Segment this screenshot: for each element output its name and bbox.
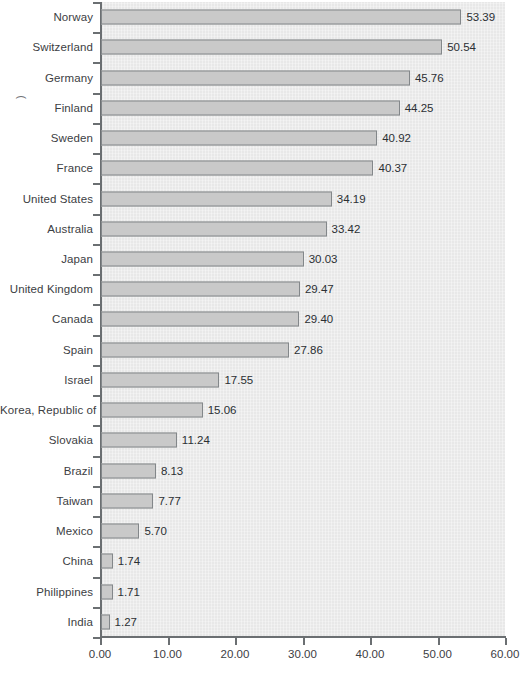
bar-value-label: 50.54 bbox=[447, 41, 476, 53]
bar-row: United States34.19 bbox=[0, 183, 530, 213]
y-axis-tick bbox=[93, 516, 101, 518]
bar-row: Japan30.03 bbox=[0, 244, 530, 274]
y-axis-tick bbox=[93, 2, 101, 4]
bar bbox=[101, 312, 299, 327]
bar-value-label: 44.25 bbox=[405, 102, 434, 114]
category-label: India bbox=[0, 616, 93, 628]
bar-value-label: 40.37 bbox=[378, 162, 407, 174]
bar-value-label: 7.77 bbox=[158, 495, 180, 507]
x-axis-tick-label: 20.00 bbox=[221, 648, 250, 660]
bar-row: Spain27.86 bbox=[0, 335, 530, 365]
bar-row: France40.37 bbox=[0, 153, 530, 183]
bar-value-label: 1.27 bbox=[115, 616, 137, 628]
category-label: Mexico bbox=[0, 525, 93, 537]
bar bbox=[101, 463, 156, 478]
category-label: Canada bbox=[0, 313, 93, 325]
x-axis-tick bbox=[370, 638, 372, 645]
x-axis-tick-label: 30.00 bbox=[288, 648, 317, 660]
bar-row: Finland44.25 bbox=[0, 93, 530, 123]
category-label: Korea, Republic of bbox=[0, 404, 93, 416]
y-axis-tick bbox=[93, 62, 101, 64]
bar-value-label: 33.42 bbox=[332, 223, 361, 235]
y-axis-tick bbox=[93, 304, 101, 306]
bar bbox=[101, 161, 373, 176]
bar-value-label: 8.13 bbox=[161, 465, 183, 477]
category-label: Germany bbox=[0, 72, 93, 84]
bar bbox=[101, 493, 153, 508]
bar-row: Sweden40.92 bbox=[0, 123, 530, 153]
category-label: Switzerland bbox=[0, 41, 93, 53]
category-label: Taiwan bbox=[0, 495, 93, 507]
category-label: Norway bbox=[0, 11, 93, 23]
bar bbox=[101, 252, 304, 267]
bar bbox=[101, 403, 203, 418]
y-axis-tick bbox=[93, 456, 101, 458]
category-label: Philippines bbox=[0, 586, 93, 598]
bar-value-label: 11.24 bbox=[182, 434, 210, 446]
x-axis-tick bbox=[235, 638, 237, 645]
bar bbox=[101, 221, 327, 236]
y-axis-tick bbox=[93, 486, 101, 488]
bar-row: Canada29.40 bbox=[0, 304, 530, 334]
category-label: France bbox=[0, 162, 93, 174]
bar-row: Switzerland50.54 bbox=[0, 32, 530, 62]
bar-value-label: 29.47 bbox=[305, 283, 334, 295]
bar-value-label: 15.06 bbox=[208, 404, 237, 416]
bar-value-label: 30.03 bbox=[309, 253, 338, 265]
bar bbox=[101, 372, 219, 387]
x-axis-tick-label: 60.00 bbox=[491, 648, 520, 660]
y-axis-tick bbox=[93, 123, 101, 125]
bar bbox=[101, 70, 410, 85]
x-axis-tick bbox=[168, 638, 170, 645]
x-axis-tick bbox=[303, 638, 305, 645]
bar bbox=[101, 614, 110, 629]
category-label: Spain bbox=[0, 344, 93, 356]
category-label: United States bbox=[0, 193, 93, 205]
category-label: Israel bbox=[0, 374, 93, 386]
bar-value-label: 45.76 bbox=[415, 72, 444, 84]
x-axis-tick-label: 50.00 bbox=[423, 648, 452, 660]
x-axis-tick bbox=[100, 638, 102, 645]
x-axis-tick bbox=[505, 638, 507, 645]
x-axis-tick-label: 10.00 bbox=[153, 648, 182, 660]
bar bbox=[101, 342, 289, 357]
y-axis-tick bbox=[93, 395, 101, 397]
bar bbox=[101, 100, 400, 115]
bar-row: Philippines1.71 bbox=[0, 577, 530, 607]
bar-value-label: 29.40 bbox=[304, 313, 333, 325]
bar-row: Brazil8.13 bbox=[0, 456, 530, 486]
bar bbox=[101, 282, 300, 297]
bar-row: Australia33.42 bbox=[0, 214, 530, 244]
bar-value-label: 5.70 bbox=[144, 525, 166, 537]
category-label: Japan bbox=[0, 253, 93, 265]
bar bbox=[101, 10, 461, 25]
bar-row: United Kingdom29.47 bbox=[0, 274, 530, 304]
y-axis-tick bbox=[93, 335, 101, 337]
bar-value-label: 53.39 bbox=[466, 11, 495, 23]
bar-row: Germany45.76 bbox=[0, 62, 530, 92]
y-axis-tick bbox=[93, 365, 101, 367]
y-axis-tick bbox=[93, 425, 101, 427]
category-label: Brazil bbox=[0, 465, 93, 477]
bar-value-label: 17.55 bbox=[224, 374, 253, 386]
y-axis-tick bbox=[93, 32, 101, 34]
category-label: Finland bbox=[0, 102, 93, 114]
bar-value-label: 40.92 bbox=[382, 132, 411, 144]
category-label: Slovakia bbox=[0, 434, 93, 446]
bar bbox=[101, 584, 113, 599]
bar-row: China1.74 bbox=[0, 546, 530, 576]
bar bbox=[101, 191, 332, 206]
y-axis-tick bbox=[93, 607, 101, 609]
x-axis-tick-label: 0.00 bbox=[89, 648, 111, 660]
bar-value-label: 27.86 bbox=[294, 344, 323, 356]
bar bbox=[101, 433, 177, 448]
bar-value-label: 1.74 bbox=[118, 555, 140, 567]
y-axis-tick bbox=[93, 183, 101, 185]
bar bbox=[101, 524, 139, 539]
bar-chart: ) Norway53.39Switzerland50.54Germany45.7… bbox=[0, 0, 530, 675]
y-axis-tick bbox=[93, 244, 101, 246]
y-axis-tick bbox=[93, 546, 101, 548]
category-label: Australia bbox=[0, 223, 93, 235]
bar-row: Mexico5.70 bbox=[0, 516, 530, 546]
x-axis-tick-label: 40.00 bbox=[356, 648, 385, 660]
